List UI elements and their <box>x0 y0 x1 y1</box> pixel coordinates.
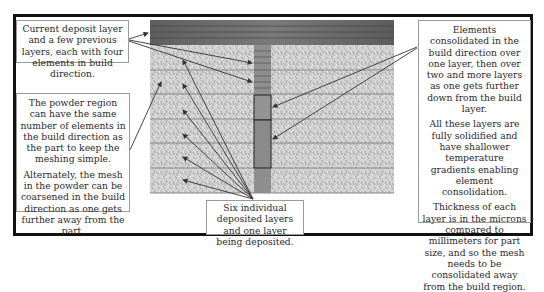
callout-middle-left-p1: The powder region can have the same numb… <box>20 97 126 165</box>
part-column <box>254 45 271 193</box>
callout-top-left: Current deposit layer and a few previous… <box>16 20 129 63</box>
callout-right-p3: Thickness of each layer is in the micron… <box>422 201 527 291</box>
current-deposit-layer <box>150 20 394 45</box>
callout-bottom-text: Six individual deposited layers and one … <box>209 202 301 247</box>
consolidated-block-2 <box>254 120 271 168</box>
consolidated-block-1 <box>254 95 271 120</box>
callout-middle-left: The powder region can have the same numb… <box>16 93 130 212</box>
callout-right-p2: All these layers are fully solidified an… <box>422 118 527 197</box>
callout-right-p1: Elements consolidated in the build direc… <box>422 24 527 114</box>
callout-top-left-text: Current deposit layer and a few previous… <box>20 23 125 79</box>
callout-middle-left-p2: Alternately, the mesh in the powder can … <box>20 169 126 237</box>
callout-right: Elements consolidated in the build direc… <box>418 20 531 223</box>
callout-bottom: Six individual deposited layers and one … <box>206 200 304 235</box>
